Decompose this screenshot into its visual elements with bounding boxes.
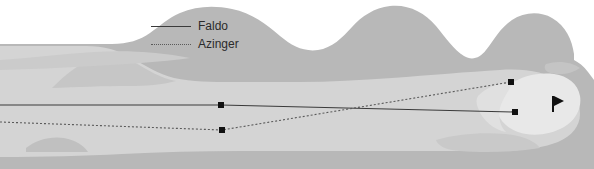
azinger-marker-2 [508,79,514,85]
faldo-marker-2 [512,109,518,115]
azinger-marker-1 [219,127,225,133]
legend-entry-azinger: Azinger [151,36,239,52]
flag-pole [552,96,554,112]
golf-hole-diagram: Faldo Azinger [0,0,594,169]
faldo-marker-1 [218,102,224,108]
legend-label-azinger: Azinger [198,38,239,50]
legend-entry-faldo: Faldo [151,18,228,34]
legend-swatch-dotted-line-icon [151,39,191,49]
legend: Faldo Azinger [151,16,301,58]
legend-label-faldo: Faldo [198,20,228,32]
legend-swatch-solid-line-icon [151,21,191,31]
